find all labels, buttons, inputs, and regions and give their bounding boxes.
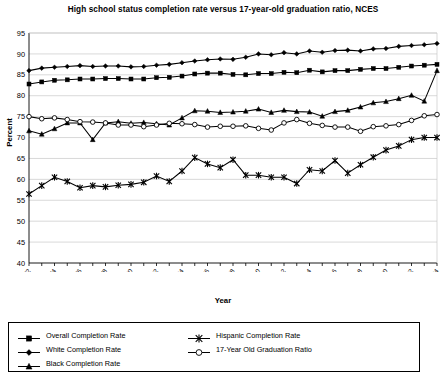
- triangle-marker-icon: [17, 361, 41, 372]
- legend-marker: [17, 344, 41, 355]
- legend-item[interactable]: Black Completion Rate: [17, 356, 126, 370]
- diamond-marker-icon: [17, 347, 41, 358]
- y-tick-label: 40: [17, 259, 25, 268]
- y-tick-label: 45: [17, 238, 25, 247]
- y-tick-labels: 404550556065707580859095: [17, 29, 25, 268]
- legend-marker: [17, 358, 41, 369]
- chart-title: High school status completion rate versu…: [0, 0, 446, 14]
- legend-marker: [17, 330, 41, 341]
- x-tick-label: 1977-78: [89, 267, 109, 272]
- x-tick-label: 2001-02: [395, 267, 415, 272]
- legend-label: Overall Completion Rate: [46, 331, 126, 340]
- y-tick-label: 85: [17, 70, 25, 79]
- chart-svg: 404550556065707580859095 1971-721973-741…: [0, 22, 446, 272]
- legend-column-right: Hispanic Completion Rate17-Year Old Grad…: [187, 328, 312, 356]
- x-tick-label: 1979-80: [114, 267, 134, 272]
- y-tick-label: 70: [17, 133, 25, 142]
- y-tick-label: 90: [17, 50, 25, 59]
- x-tick-label: 1983-84: [165, 267, 185, 272]
- series-hispanic-completion-rate: [26, 134, 439, 197]
- x-tick-labels: 1971-721973-741975-761977-781979-801981-…: [12, 267, 440, 272]
- x-tick-label: 1993-94: [293, 267, 313, 272]
- x-tick-label: 2003-04: [420, 267, 440, 272]
- circle-marker-icon: [187, 347, 211, 358]
- data-series-group: [26, 41, 439, 197]
- legend-column-left: Overall Completion RateWhite Completion …: [17, 328, 126, 370]
- x-tick-marks: [29, 263, 437, 266]
- legend-item[interactable]: 17-Year Old Graduation Ratio: [187, 342, 312, 356]
- y-tick-label: 60: [17, 175, 25, 184]
- chart-legend: Overall Completion RateWhite Completion …: [8, 322, 420, 372]
- x-tick-label: 1997-98: [344, 267, 364, 272]
- x-tick-label: 1973-74: [38, 267, 58, 272]
- legend-label: Hispanic Completion Rate: [216, 331, 300, 340]
- square-marker-icon: [17, 333, 41, 344]
- legend-item[interactable]: Hispanic Completion Rate: [187, 328, 312, 342]
- y-tick-label: 80: [17, 91, 25, 100]
- y-tick-label: 75: [17, 112, 25, 121]
- gridlines: [29, 33, 437, 242]
- x-tick-label: 1981-82: [140, 267, 160, 272]
- y-tick-label: 65: [17, 154, 25, 163]
- x-tick-label: 1995-96: [318, 267, 338, 272]
- legend-label: Black Completion Rate: [46, 359, 120, 368]
- x-tick-label: 1975-76: [63, 267, 83, 272]
- legend-label: 17-Year Old Graduation Ratio: [216, 345, 312, 354]
- legend-marker: [187, 344, 211, 355]
- legend-label: White Completion Rate: [46, 345, 121, 354]
- y-tick-label: 95: [17, 29, 25, 38]
- legend-item[interactable]: White Completion Rate: [17, 342, 126, 356]
- legend-item[interactable]: Overall Completion Rate: [17, 328, 126, 342]
- series-17-year-old-graduation-ratio: [27, 112, 440, 133]
- y-axis-label: Percent: [5, 103, 14, 163]
- x-marker-icon: [187, 333, 211, 344]
- y-tick-label: 55: [17, 196, 25, 205]
- x-tick-label: 1989-90: [242, 267, 262, 272]
- x-tick-label: 1985-86: [191, 267, 211, 272]
- x-tick-label: 1987-88: [216, 267, 236, 272]
- x-tick-label: 1971-72: [12, 267, 32, 272]
- x-axis-label: Year: [0, 296, 446, 305]
- legend-marker: [187, 330, 211, 341]
- plot-area: 404550556065707580859095 1971-721973-741…: [0, 22, 446, 272]
- y-tick-label: 50: [17, 217, 25, 226]
- x-tick-label: 1999-00: [369, 267, 389, 272]
- x-tick-label: 1991-92: [267, 267, 287, 272]
- plot-frame: [29, 33, 437, 263]
